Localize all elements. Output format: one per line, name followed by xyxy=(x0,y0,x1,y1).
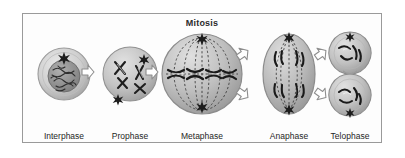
stage-telophase: Telophase xyxy=(319,30,381,142)
stage-label-metaphase: Metaphase xyxy=(154,131,250,141)
mitosis-diagram-frame: Mitosis xyxy=(22,13,382,143)
telophase-cell-illustration xyxy=(319,30,381,118)
stage-label-anaphase: Anaphase xyxy=(248,131,330,141)
stage-label-telophase: Telophase xyxy=(319,131,381,141)
page-title: Mitosis xyxy=(23,18,381,28)
